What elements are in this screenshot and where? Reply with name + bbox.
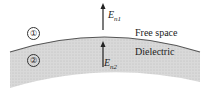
dielectric-label: Dielectric [135,47,174,57]
en1-label: En1 [108,10,121,23]
en2-label: En2 [104,58,117,71]
diagram-graphics [0,0,208,98]
boundary-diagram: ① Free space ② Dielectric En1 En2 [0,0,208,98]
region-2-marker: ② [27,54,40,67]
region-1-marker: ① [27,27,40,40]
arrowhead-en1 [101,3,106,9]
free-space-label: Free space [135,28,177,38]
